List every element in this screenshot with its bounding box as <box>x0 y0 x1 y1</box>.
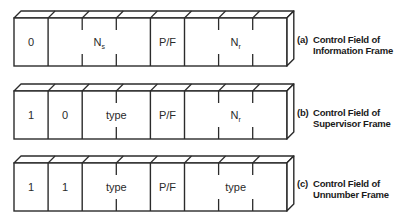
caption-information-frame: (a)Control Field of Information Frame <box>297 34 393 56</box>
caption-line2: Information Frame <box>297 45 393 56</box>
frame-row-a: 0NsP/FNr <box>14 11 294 66</box>
box-side-face <box>287 156 294 211</box>
field-label: 0 <box>62 109 68 121</box>
frame-row-b: 10typeP/FNr <box>14 84 294 139</box>
field-label: P/F <box>159 109 176 121</box>
caption-unnumber-frame: (c)Control Field of Unnumber Frame <box>297 178 389 200</box>
field-label: P/F <box>159 181 176 193</box>
field-label: 1 <box>28 181 34 193</box>
caption-line1: Control Field of <box>313 34 380 45</box>
field-label: 1 <box>28 109 34 121</box>
caption-tag: (b) <box>297 107 313 118</box>
caption-line2: Supervisor Frame <box>297 118 391 129</box>
box-side-face <box>287 84 294 139</box>
field-label: type <box>106 181 127 193</box>
field-label: P/F <box>159 36 176 48</box>
field-label: type <box>225 181 246 193</box>
caption-line2: Unnumber Frame <box>297 189 389 200</box>
field-label: 1 <box>62 181 68 193</box>
caption-tag: (a) <box>297 34 313 45</box>
field-label: type <box>106 109 127 121</box>
caption-line1: Control Field of <box>313 178 380 189</box>
box-side-face <box>287 11 294 66</box>
frame-row-c: 11typeP/Ftype <box>14 156 294 211</box>
caption-tag: (c) <box>297 178 313 189</box>
field-label: 0 <box>28 36 34 48</box>
caption-supervisor-frame: (b)Control Field of Supervisor Frame <box>297 107 391 129</box>
caption-line1: Control Field of <box>313 107 380 118</box>
